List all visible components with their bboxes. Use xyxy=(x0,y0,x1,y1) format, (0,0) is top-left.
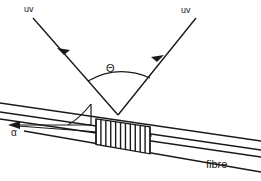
alpha-angle-label: α xyxy=(11,128,17,138)
fibre-label: fibre xyxy=(206,159,227,170)
alpha-angle-marker xyxy=(8,104,91,129)
fbg-inscription-diagram: uv uv Θ α fibre xyxy=(0,0,261,181)
uv-label-left: uv xyxy=(24,5,34,14)
theta-arc xyxy=(88,72,150,81)
uv-beam-right-line xyxy=(118,18,196,115)
uv-label-right: uv xyxy=(181,6,191,15)
theta-angle-label: Θ xyxy=(106,63,115,74)
uv-beam-right xyxy=(118,18,196,115)
uv-beam-left-arrowhead xyxy=(57,48,70,55)
diagram-canvas xyxy=(0,0,261,181)
